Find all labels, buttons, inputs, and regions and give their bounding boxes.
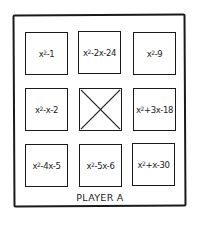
tile-3[interactable]: x2-9 [133, 32, 176, 75]
tile-5-crossed-out[interactable] [79, 88, 122, 131]
player-label: PLAYER A [0, 192, 200, 203]
tile-9[interactable]: x2+x-30 [132, 143, 175, 186]
tile-exponent: 2 [37, 161, 40, 168]
tile-expression-rest: +3x-18 [144, 105, 173, 115]
tile-expression-rest: -5x-6 [95, 161, 115, 171]
tile-exponent: 2 [88, 48, 91, 55]
tile-expression-rest: -2x-24 [91, 48, 116, 58]
tile-exponent: 2 [40, 105, 43, 112]
tile-exponent: 2 [43, 49, 46, 56]
tile-exponent: 2 [141, 105, 144, 112]
tile-7[interactable]: x2-4x-5 [25, 144, 68, 187]
tile-8[interactable]: x2-5x-6 [79, 144, 122, 187]
tile-expression-rest: -1 [47, 49, 55, 59]
tile-expression-rest: -4x-5 [41, 161, 61, 171]
tile-exponent: 2 [142, 160, 145, 167]
tile-expression-rest: -9 [155, 49, 163, 59]
tile-expression-rest: -x-2 [43, 105, 58, 115]
tile-exponent: 2 [151, 49, 154, 56]
tile-exponent: 2 [91, 161, 94, 168]
tile-4[interactable]: x2-x-2 [25, 88, 68, 131]
tile-2[interactable]: x2-2x-24 [78, 31, 121, 74]
cross-mark-icon [80, 89, 121, 130]
tile-1[interactable]: x2-1 [25, 32, 68, 75]
tile-expression-rest: +x-30 [146, 160, 170, 170]
tile-6[interactable]: x2+3x-18 [133, 88, 176, 131]
